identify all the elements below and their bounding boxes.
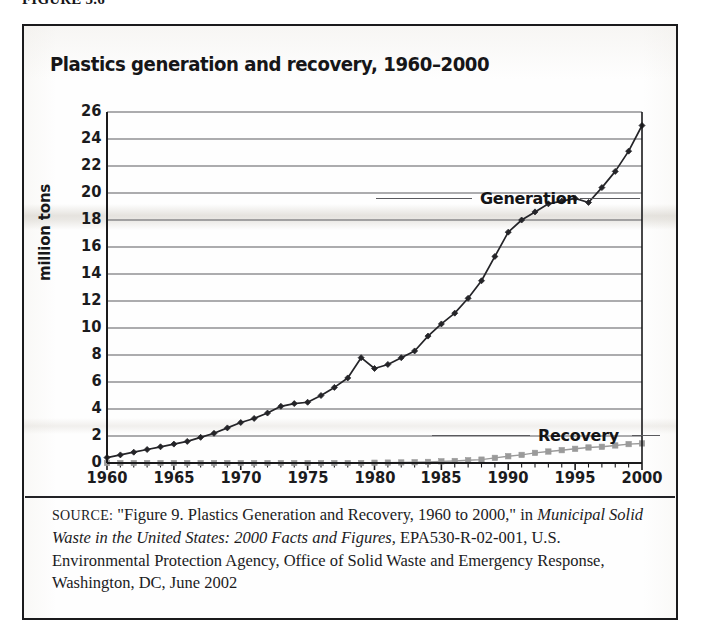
data-point-marker <box>144 447 150 453</box>
plot-area <box>107 112 642 463</box>
data-point-marker <box>251 415 257 421</box>
data-point-marker <box>184 438 190 444</box>
generation-leader-line <box>376 198 472 199</box>
figure-frame: Plastics generation and recovery, 1960–2… <box>22 24 678 620</box>
data-point-marker <box>117 452 123 458</box>
figure-number-label: FIGURE 5.6 <box>22 0 105 8</box>
data-point-marker <box>398 355 404 361</box>
data-point-marker <box>291 401 297 407</box>
data-point-marker <box>305 399 311 405</box>
recovery-leader-line <box>632 435 660 436</box>
x-axis-tick-label: 1995 <box>555 469 596 487</box>
x-axis-tick-label: 2000 <box>622 469 663 487</box>
data-point-marker <box>265 410 271 416</box>
generation-leader-line <box>580 198 640 199</box>
y-axis-title: million tons <box>36 184 54 281</box>
y-axis-tick-label: 24 <box>82 129 102 147</box>
data-point-marker <box>211 430 217 436</box>
y-axis-tick-labels: 02468101214161820222426 <box>64 112 102 463</box>
y-axis-tick-label: 16 <box>82 237 102 255</box>
x-axis-tick-labels: 196019651970197519801985199019952000 <box>107 469 642 493</box>
recovery-leader-line <box>432 435 530 436</box>
y-axis-tick-label: 22 <box>82 156 102 174</box>
data-point-marker <box>171 441 177 447</box>
data-point-marker <box>238 420 244 426</box>
data-point-marker <box>158 444 164 450</box>
series-label-generation: Generation <box>480 189 577 208</box>
x-axis-tick-label: 1985 <box>421 469 462 487</box>
data-point-marker <box>385 361 391 367</box>
y-axis-tick-label: 10 <box>82 318 102 336</box>
data-point-marker <box>506 454 511 459</box>
x-axis-tick-label: 1970 <box>220 469 261 487</box>
x-axis-tick-label: 1965 <box>153 469 194 487</box>
data-point-marker <box>626 441 631 446</box>
y-axis-tick-label: 4 <box>92 399 102 417</box>
chart-title: Plastics generation and recovery, 1960–2… <box>50 53 489 76</box>
series-label-recovery: Recovery <box>538 426 619 445</box>
y-axis-tick-label: 12 <box>82 291 102 309</box>
data-point-marker <box>479 457 484 462</box>
y-axis-tick-label: 20 <box>82 183 102 201</box>
data-point-marker <box>224 425 230 431</box>
x-axis-tick-label: 1990 <box>488 469 529 487</box>
y-axis-tick-label: 6 <box>92 372 102 390</box>
data-point-marker <box>532 450 537 455</box>
data-point-marker <box>492 455 497 460</box>
x-axis-tick-label: 1960 <box>87 469 128 487</box>
data-point-marker <box>198 434 204 440</box>
source-note: SOURCE: "Figure 9. Plastics Generation a… <box>52 504 652 595</box>
data-point-marker <box>572 446 577 451</box>
data-point-marker <box>546 449 551 454</box>
source-line-1: "Figure 9. Plastics Generation and Recov… <box>117 505 533 524</box>
gridlines <box>107 112 642 463</box>
data-point-marker <box>131 449 137 455</box>
y-axis-tick-label: 26 <box>82 102 102 120</box>
data-point-marker <box>559 447 564 452</box>
x-axis-tick-label: 1975 <box>287 469 328 487</box>
source-divider <box>25 496 675 498</box>
data-point-marker <box>586 445 591 450</box>
x-axis-tick-label: 1980 <box>354 469 395 487</box>
series-line <box>107 126 642 458</box>
y-axis-tick-label: 14 <box>82 264 102 282</box>
data-point-marker <box>519 452 524 457</box>
y-axis-tick-label: 18 <box>82 210 102 228</box>
data-point-marker <box>278 403 284 409</box>
source-kicker: SOURCE: <box>52 508 113 523</box>
y-axis-tick-label: 8 <box>92 345 102 363</box>
chart-svg <box>107 112 642 463</box>
y-axis-tick-label: 2 <box>92 426 102 444</box>
series-generation <box>104 123 645 461</box>
